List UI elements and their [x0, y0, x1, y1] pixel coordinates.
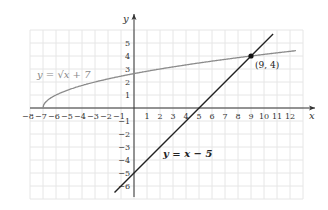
- y-tick-label: −1: [118, 117, 130, 126]
- x-tick-label: −5: [61, 112, 73, 121]
- intersection-point: [248, 53, 253, 58]
- y-axis-label: y: [122, 13, 129, 24]
- x-tick-label: 5: [196, 112, 201, 121]
- x-tick-label: 2: [157, 112, 162, 121]
- y-tick-label: 1: [125, 91, 130, 100]
- x-axis-label: x: [309, 110, 315, 121]
- x-tick-label: −2: [100, 112, 112, 121]
- x-tick-label: −8: [22, 112, 34, 121]
- y-tick-label: −2: [118, 130, 130, 139]
- sqrt-curve-label: y = √x + 7: [36, 69, 91, 80]
- x-tick-label: 12: [285, 112, 295, 121]
- x-tick-label: 8: [235, 112, 240, 121]
- y-tick-label: 3: [125, 65, 130, 74]
- x-tick-label: 11: [272, 112, 282, 121]
- y-tick-label: 2: [125, 78, 130, 87]
- x-tick-label: 3: [170, 112, 175, 121]
- y-tick-label: −5: [118, 169, 130, 178]
- graph-plot: −8−7−6−5−4−3−2−1123456789101112−6−5−4−3−…: [0, 0, 328, 210]
- intersection-label: (9, 4): [255, 60, 279, 70]
- y-tick-label: −4: [118, 156, 130, 165]
- x-tick-label: 1: [144, 112, 149, 121]
- x-tick-label: −3: [87, 112, 99, 121]
- y-tick-label: 5: [125, 39, 130, 48]
- x-tick-label: 6: [209, 112, 214, 121]
- x-tick-label: −6: [48, 112, 60, 121]
- x-tick-label: −4: [74, 112, 86, 121]
- x-tick-label: 10: [259, 112, 269, 121]
- line-label: y = x − 5: [162, 148, 212, 159]
- y-tick-label: −3: [118, 143, 130, 152]
- y-tick-label: 4: [125, 52, 130, 61]
- x-tick-label: −7: [35, 112, 47, 121]
- x-tick-label: 9: [248, 112, 253, 121]
- x-tick-label: 7: [222, 112, 227, 121]
